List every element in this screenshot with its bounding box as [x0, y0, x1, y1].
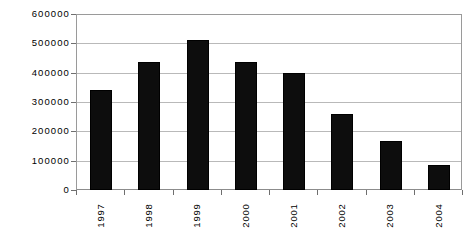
bar[interactable]: [331, 114, 353, 190]
y-tick-label: 400000: [0, 68, 70, 78]
x-tick-label-text: 2002: [336, 203, 347, 227]
x-axis: 19971998199920002001200220032004: [76, 190, 462, 233]
plot-area: [76, 14, 462, 190]
x-tick-label: 2001: [269, 198, 317, 223]
bar[interactable]: [428, 165, 450, 190]
x-tick-label-text: 1998: [143, 203, 154, 227]
x-tick-label: 2000: [221, 198, 269, 223]
x-tick-mark: [269, 190, 270, 195]
y-tick-label: 500000: [0, 38, 70, 48]
y-tick-label: 0: [0, 185, 70, 195]
x-tick-label: 2002: [317, 198, 365, 223]
y-tick-label: 100000: [0, 156, 70, 166]
bar-slot: [125, 14, 173, 190]
x-tick-label-text: 2004: [432, 203, 443, 227]
x-tick-label-text: 2001: [288, 203, 299, 227]
bar[interactable]: [138, 62, 160, 190]
bar[interactable]: [187, 40, 209, 190]
bar-slot: [318, 14, 366, 190]
y-axis: 0100000200000300000400000500000600000: [0, 0, 70, 233]
bar-slot: [415, 14, 463, 190]
bar-slot: [367, 14, 415, 190]
x-tick-label: 1997: [76, 198, 124, 223]
x-tick-mark: [221, 190, 222, 195]
bar[interactable]: [235, 62, 257, 190]
x-tick-mark: [414, 190, 415, 195]
x-tick-label-text: 2003: [384, 203, 395, 227]
bar[interactable]: [283, 73, 305, 190]
x-tick-label-text: 2000: [239, 203, 250, 227]
x-tick-mark: [76, 190, 77, 195]
x-tick-mark: [124, 190, 125, 195]
bar[interactable]: [90, 90, 112, 190]
y-tick-label: 600000: [0, 9, 70, 19]
x-tick-label-text: 1997: [95, 203, 106, 227]
x-tick-mark: [366, 190, 367, 195]
x-tick-mark: [173, 190, 174, 195]
x-tick-label: 1998: [124, 198, 172, 223]
bar-slot: [77, 14, 125, 190]
bar-slot: [270, 14, 318, 190]
bar-chart: 0100000200000300000400000500000600000 19…: [0, 0, 475, 233]
bar-slot: [222, 14, 270, 190]
x-tick-label: 1999: [173, 198, 221, 223]
x-tick-mark: [317, 190, 318, 195]
x-tick-label: 2004: [414, 198, 462, 223]
x-tick-label-text: 1999: [191, 203, 202, 227]
y-tick-label: 200000: [0, 126, 70, 136]
bar[interactable]: [380, 141, 402, 190]
x-tick-label: 2003: [366, 198, 414, 223]
x-tick-mark: [462, 190, 463, 195]
y-tick-label: 300000: [0, 97, 70, 107]
bar-slot: [174, 14, 222, 190]
